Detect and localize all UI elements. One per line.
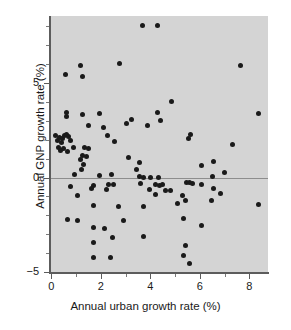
data-point — [63, 72, 68, 77]
x-axis-minor-tick — [76, 274, 77, 277]
x-axis-tick — [101, 274, 102, 279]
data-point — [65, 149, 70, 154]
x-axis-tick — [249, 274, 250, 279]
data-point — [97, 173, 102, 178]
data-point — [138, 181, 143, 186]
data-point — [160, 182, 165, 187]
data-point — [64, 114, 69, 119]
data-point — [137, 160, 142, 165]
y-axis-minor-tick — [46, 140, 49, 141]
data-point — [91, 255, 96, 260]
data-point — [116, 204, 121, 209]
data-point — [121, 218, 126, 223]
data-point — [186, 136, 191, 141]
data-point — [80, 74, 85, 79]
data-point — [147, 187, 152, 192]
data-point — [129, 117, 134, 122]
data-point — [222, 170, 227, 175]
y-axis-minor-tick — [46, 253, 49, 254]
y-axis-minor-tick — [46, 45, 49, 46]
data-point — [84, 154, 89, 159]
data-point — [218, 191, 223, 196]
y-axis-minor-tick — [46, 215, 49, 216]
y-axis-line — [49, 16, 51, 273]
data-point — [187, 261, 192, 266]
y-axis-minor-tick — [46, 102, 49, 103]
x-axis-tick-label: 6 — [190, 281, 210, 292]
data-point — [58, 148, 63, 153]
data-point — [71, 145, 76, 150]
data-point — [230, 142, 235, 147]
data-point — [140, 23, 145, 28]
data-point — [181, 216, 186, 221]
x-axis-tick-label: 0 — [41, 281, 61, 292]
data-point — [199, 223, 204, 228]
x-axis-minor-tick — [126, 274, 127, 277]
y-axis-minor-tick — [46, 159, 49, 160]
data-point — [256, 202, 261, 207]
data-point — [209, 198, 214, 203]
y-axis-minor-tick — [46, 64, 49, 65]
data-point — [210, 174, 215, 179]
data-point — [75, 193, 80, 198]
data-point — [110, 235, 115, 240]
data-point — [145, 123, 150, 128]
data-point — [141, 234, 146, 239]
data-point — [153, 192, 158, 197]
data-point — [181, 253, 186, 258]
data-point — [199, 163, 204, 168]
data-point — [148, 175, 153, 180]
y-axis-minor-tick — [46, 26, 49, 27]
data-point — [141, 175, 146, 180]
data-point — [211, 186, 216, 191]
data-point — [124, 121, 129, 126]
data-point — [141, 204, 146, 209]
plot-panel — [50, 16, 268, 272]
y-axis-minor-tick — [46, 121, 49, 122]
data-point — [175, 201, 180, 206]
data-point — [101, 125, 106, 130]
data-point — [104, 187, 109, 192]
data-point — [256, 111, 261, 116]
y-axis-tick — [44, 272, 49, 273]
data-point — [80, 112, 85, 117]
data-point — [126, 155, 131, 160]
data-point — [211, 159, 216, 164]
data-point — [109, 172, 114, 177]
data-point — [68, 184, 73, 189]
data-point — [183, 243, 188, 248]
data-point — [105, 133, 110, 138]
x-axis-line — [49, 272, 269, 274]
x-axis-tick-label: 4 — [140, 281, 160, 292]
data-point — [78, 63, 83, 68]
data-point — [190, 181, 195, 186]
data-point — [158, 118, 163, 123]
data-point — [169, 99, 174, 104]
data-point — [106, 182, 111, 187]
data-point — [199, 182, 204, 187]
data-point — [79, 167, 84, 172]
data-point — [91, 225, 96, 230]
x-axis-tick-label: 2 — [91, 281, 111, 292]
data-point — [68, 138, 73, 143]
data-point — [81, 162, 86, 167]
data-point — [183, 198, 188, 203]
data-point — [72, 172, 77, 177]
x-axis-title: Annual urban growth rate (%) — [0, 300, 291, 312]
x-axis-minor-tick — [175, 274, 176, 277]
x-axis-minor-tick — [225, 274, 226, 277]
data-point — [238, 63, 243, 68]
data-point — [91, 203, 96, 208]
data-point — [97, 111, 102, 116]
data-point — [86, 123, 91, 128]
data-point — [86, 146, 91, 151]
data-point — [156, 175, 161, 180]
data-point — [108, 255, 113, 260]
data-point — [102, 226, 107, 231]
x-axis-tick — [200, 274, 201, 279]
data-point — [134, 167, 139, 172]
x-axis-tick — [150, 274, 151, 279]
scatter-plot-figure: −50502468 Annual urban growth rate (%) A… — [0, 0, 291, 330]
data-point — [89, 186, 94, 191]
y-axis-title: Annual GNP growth rate (%) — [34, 11, 46, 261]
